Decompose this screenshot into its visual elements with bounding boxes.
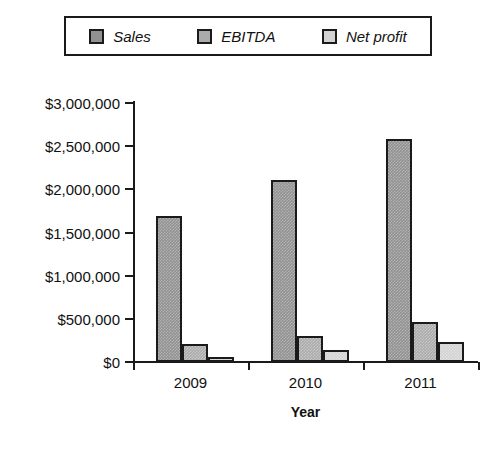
bar-ebitda-2010 [297,336,323,362]
bar-sales-2011 [386,139,412,362]
y-axis-tick-labels: $0$500,000$1,000,000$1,500,000$2,000,000… [8,0,120,458]
legend-label-ebitda: EBITDA [221,28,275,45]
y-tick-label: $1,500,000 [10,224,120,241]
legend-label-net-profit: Net profit [346,28,407,45]
y-tick-label: $2,000,000 [10,181,120,198]
x-tick-mark [478,362,480,370]
x-tick-label: 2011 [361,374,481,391]
x-axis-title: Year [133,404,478,420]
plot-area [133,103,478,362]
bar-chart: Sales EBITDA Net profit $0$500,000$1,000… [0,0,497,458]
y-tick-label: $3,000,000 [10,95,120,112]
x-tick-mark [248,362,250,370]
bar-net-profit-2009 [208,357,234,362]
x-tick-label: 2009 [131,374,251,391]
x-tick-mark [133,362,135,370]
bar-sales-2009 [156,216,182,362]
legend-swatch-icon-net-profit [322,29,337,44]
x-tick-label: 2010 [246,374,366,391]
bar-net-profit-2010 [323,350,349,362]
x-tick-mark [363,362,365,370]
bar-net-profit-2011 [438,342,464,362]
y-tick-label: $2,500,000 [10,138,120,155]
bar-ebitda-2009 [182,344,208,362]
bar-sales-2010 [271,180,297,362]
y-tick-label: $1,000,000 [10,267,120,284]
legend-swatch-icon-ebitda [197,29,212,44]
y-tick-label: $500,000 [10,310,120,327]
legend-item-net-profit: Net profit [322,28,407,45]
legend-item-ebitda: EBITDA [197,28,275,45]
bar-ebitda-2011 [412,322,438,362]
y-tick-label: $0 [10,354,120,371]
